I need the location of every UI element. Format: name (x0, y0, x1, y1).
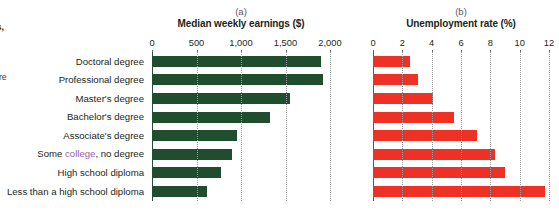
category-row: Some college, no degree (0, 145, 148, 164)
category-row: Less than a high school diploma (0, 182, 148, 201)
bar-unemployment (373, 56, 410, 67)
category-axis-labels: Doctoral degreeProfessional degreeMaster… (0, 52, 148, 201)
gridline (197, 52, 198, 201)
x-tick-label: 2,000 (318, 38, 341, 48)
chart-panel-a: 05001,0001,5002,000 (152, 52, 330, 201)
gridline (549, 52, 550, 201)
category-label: Some college, no degree (37, 149, 144, 159)
x-tick-label: 6 (458, 38, 463, 48)
x-tick-label: 2 (400, 38, 405, 48)
category-row: Bachelor's degree (0, 108, 148, 127)
category-row: Professional degree (0, 71, 148, 90)
x-tick-label: 1,000 (229, 38, 252, 48)
panel-b-title: Unemployment rate (%) (363, 18, 559, 29)
x-tick-label: 12 (544, 38, 554, 48)
chart-panel-b: 024681012 (373, 52, 549, 201)
x-tick-label: 0 (370, 38, 375, 48)
panel-b-x-ticks: 024681012 (373, 38, 549, 52)
gridline (241, 52, 242, 201)
gridline (402, 52, 403, 201)
bar-earnings (152, 74, 323, 85)
gridline (286, 52, 287, 201)
category-row: Doctoral degree (0, 52, 148, 71)
bar-unemployment (373, 112, 454, 123)
margin-text-line-1: rnings, (0, 22, 4, 32)
bar-unemployment (373, 149, 495, 160)
x-tick-label: 500 (189, 38, 205, 48)
category-label: Less than a high school diploma (7, 187, 144, 197)
x-tick-label: 4 (429, 38, 434, 48)
x-tick-label: 1,500 (274, 38, 297, 48)
bar-unemployment (373, 167, 505, 178)
panel-a-letter: (a) (152, 6, 330, 17)
gridline (330, 52, 331, 201)
gridline (490, 52, 491, 201)
x-tick-label: 10 (514, 38, 524, 48)
category-label: Bachelor's degree (67, 112, 144, 122)
category-row: High school diploma (0, 164, 148, 183)
bar-earnings (152, 149, 232, 160)
category-label: Master's degree (76, 94, 145, 104)
bar-unemployment (373, 74, 418, 85)
bar-earnings (152, 93, 290, 104)
panel-a-x-ticks: 05001,0001,5002,000 (152, 38, 330, 52)
panel-b-letter: (b) (373, 6, 549, 17)
category-label: Associate's degree (63, 131, 144, 141)
category-label: Professional degree (59, 75, 144, 85)
tinted-word: college (65, 148, 95, 159)
bar-earnings (152, 112, 270, 123)
category-label: High school diploma (58, 168, 144, 178)
gridline (520, 52, 521, 201)
gridline (461, 52, 462, 201)
bar-earnings (152, 130, 237, 141)
category-row: Master's degree (0, 89, 148, 108)
bar-earnings (152, 186, 207, 197)
category-row: Associate's degree (0, 126, 148, 145)
x-tick-label: 8 (488, 38, 493, 48)
gridline (432, 52, 433, 201)
x-tick-label: 0 (149, 38, 154, 48)
panel-a-title: Median weekly earnings ($) (132, 18, 350, 29)
bar-earnings (152, 56, 321, 67)
category-label: Doctoral degree (76, 57, 144, 67)
bar-earnings (152, 167, 221, 178)
